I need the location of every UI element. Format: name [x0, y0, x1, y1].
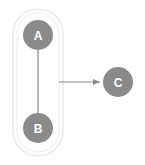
diagram-canvas: A B C — [0, 0, 145, 165]
node-a[interactable]: A — [23, 20, 53, 50]
node-b-label: B — [34, 122, 43, 136]
node-c[interactable]: C — [103, 67, 133, 97]
node-c-label: C — [114, 76, 123, 90]
node-a-label: A — [34, 29, 43, 43]
node-b[interactable]: B — [23, 113, 53, 143]
